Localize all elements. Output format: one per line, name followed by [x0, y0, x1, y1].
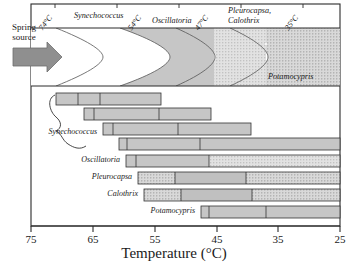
- bar-synechococcus-3: [103, 123, 251, 135]
- bar-calothrix: [144, 189, 340, 201]
- row-label-calothrix: Calothrix: [0, 190, 138, 198]
- bar-pleurocapsa: [138, 172, 340, 184]
- row-label-pleurocapsa: Pleurocapsa: [0, 173, 132, 181]
- bar-synechococcus-4: [119, 138, 340, 150]
- row-label-synechococcus: Synechococcus: [0, 128, 97, 136]
- x-axis-ticks: [31, 226, 340, 232]
- spring-source-line2: source: [2, 32, 46, 42]
- row-label-oscillatoria: Oscillatoria: [0, 156, 120, 164]
- bar-synechococcus-1: [56, 93, 161, 105]
- bar-potamocypris: [201, 206, 340, 218]
- x-axis-title: Temperature (°C): [0, 246, 348, 261]
- zone-label-potamocypris: Potamocypris: [268, 73, 313, 81]
- bar-synechococcus-2: [84, 108, 211, 120]
- x-tick-45: 45: [203, 234, 231, 245]
- x-tick-25: 25: [326, 234, 348, 245]
- x-tick-75: 75: [17, 234, 45, 245]
- bar-oscillatoria: [126, 155, 340, 167]
- zone-label-oscillatoria: Oscillatoria: [152, 17, 192, 25]
- zone-label-calothrix: Calothrix: [228, 17, 259, 25]
- x-tick-55: 55: [141, 234, 169, 245]
- zone-label-pleurocapsa: Pleurocapsa,: [228, 7, 271, 15]
- x-tick-35: 35: [264, 234, 292, 245]
- zone-label-synechococcus: Synechococcus: [74, 12, 124, 20]
- row-label-potamocypris: Potamocypris: [0, 207, 195, 215]
- figure-root: Spring source 74°C 54°C 47°C 35°C Synech…: [0, 0, 348, 268]
- x-tick-65: 65: [79, 234, 107, 245]
